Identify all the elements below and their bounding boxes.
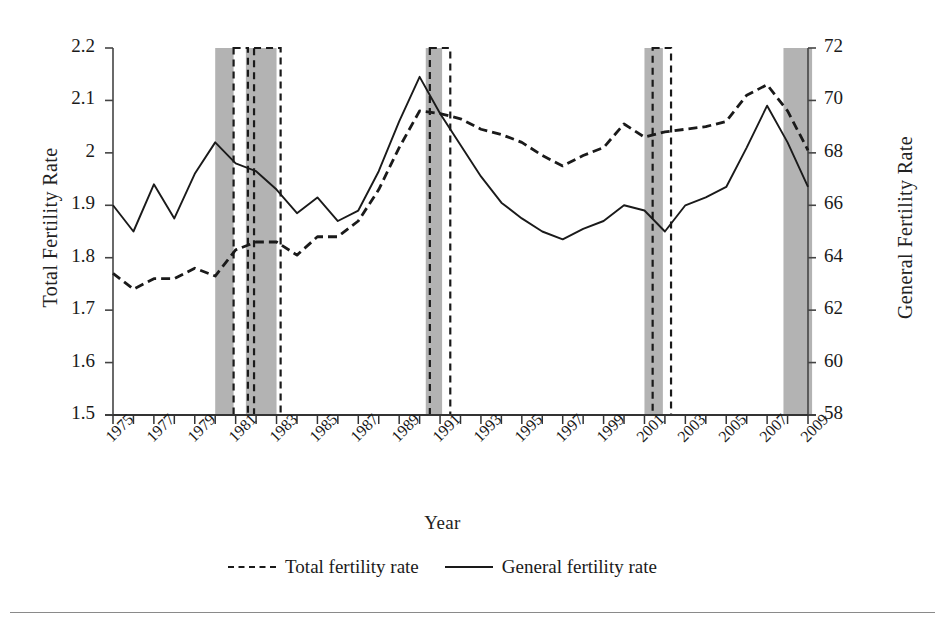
y-tick-label-right: 68 <box>824 140 864 162</box>
y-tick-label-left: 1.8 <box>43 245 95 267</box>
y-tick-label-right: 60 <box>824 350 864 372</box>
legend-item: General fertility rate <box>445 556 657 578</box>
y-tick-label-right: 64 <box>824 245 864 267</box>
y-tick-label-left: 2 <box>43 140 95 162</box>
recession-band <box>215 48 233 415</box>
bottom-divider <box>10 612 935 613</box>
y-tick-label-right: 62 <box>824 297 864 319</box>
dashed-outline-box <box>234 48 248 415</box>
dashed-line-icon <box>228 566 276 568</box>
legend-label: General fertility rate <box>502 556 657 578</box>
y-tick-label-left: 1.7 <box>43 297 95 319</box>
legend-label: Total fertility rate <box>285 556 419 578</box>
y-tick-label-right: 70 <box>824 87 864 109</box>
y-tick-label-left: 1.5 <box>43 402 95 424</box>
y-tick-label-right: 66 <box>824 192 864 214</box>
y-tick-label-left: 2.1 <box>43 87 95 109</box>
legend-item: Total fertility rate <box>228 556 419 578</box>
y-tick-label-right: 72 <box>824 35 864 57</box>
fertility-rate-chart: Total Fertility Rate General Fertility R… <box>0 0 945 634</box>
chart-legend: Total fertility rateGeneral fertility ra… <box>0 556 885 578</box>
plot-area <box>0 0 945 634</box>
y-tick-label-left: 1.6 <box>43 350 95 372</box>
solid-line-icon <box>445 566 493 568</box>
recession-band <box>246 48 277 415</box>
y-tick-label-left: 2.2 <box>43 35 95 57</box>
y-tick-label-left: 1.9 <box>43 192 95 214</box>
